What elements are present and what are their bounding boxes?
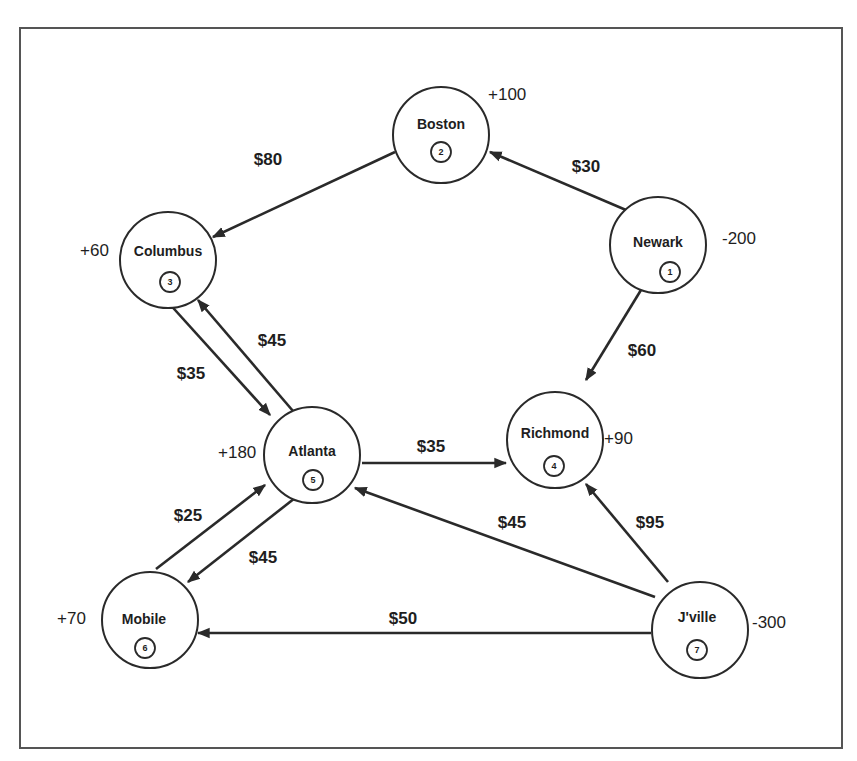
node-name: J'ville (678, 609, 717, 625)
node-name: Columbus (134, 243, 203, 259)
node-supply: -200 (722, 229, 756, 248)
node-mobile: Mobile 6 +70 (57, 572, 198, 668)
cost-boston-columbus: $80 (254, 150, 282, 169)
edges (156, 152, 668, 633)
node-number: 2 (438, 147, 443, 157)
node-supply: -300 (752, 613, 786, 632)
edge-jville-richmond (586, 484, 668, 582)
edge-atlanta-columbus (198, 300, 293, 411)
cost-newark-boston: $30 (572, 157, 600, 176)
node-columbus: Columbus 3 +60 (80, 212, 216, 308)
node-number: 6 (142, 643, 147, 653)
node-number: 7 (694, 645, 699, 655)
node-supply: +60 (80, 241, 109, 260)
edge-newark-boston (490, 152, 626, 210)
edge-columbus-atlanta (166, 300, 270, 415)
node-newark: Newark 1 -200 (610, 197, 756, 293)
cost-columbus-atlanta: $35 (177, 364, 205, 383)
node-name: Mobile (122, 611, 167, 627)
node-atlanta: Atlanta 5 +180 (218, 407, 360, 503)
cost-mobile-atlanta: $25 (174, 506, 202, 525)
node-name: Boston (417, 116, 465, 132)
edge-atlanta-mobile (188, 498, 295, 582)
node-supply: +100 (488, 85, 526, 104)
cost-jville-atlanta: $45 (498, 513, 526, 532)
node-jville: J'ville 7 -300 (652, 582, 786, 678)
network-diagram: $30 $80 $60 $35 $45 $35 $25 $45 $45 $95 … (0, 0, 857, 761)
edge-jville-atlanta (355, 488, 655, 597)
node-name: Newark (633, 234, 683, 250)
cost-atlanta-richmond: $35 (417, 437, 445, 456)
node-number: 4 (551, 461, 556, 471)
cost-jville-mobile: $50 (389, 609, 417, 628)
node-boston: Boston 2 +100 (393, 85, 526, 183)
node-number: 3 (167, 277, 172, 287)
node-supply: +70 (57, 609, 86, 628)
cost-jville-richmond: $95 (636, 513, 664, 532)
node-number: 1 (667, 267, 672, 277)
node-number: 5 (310, 475, 315, 485)
cost-atlanta-mobile: $45 (249, 548, 277, 567)
node-richmond: Richmond 4 +90 (507, 392, 633, 488)
node-name: Atlanta (288, 443, 336, 459)
node-name: Richmond (521, 425, 589, 441)
edge-boston-columbus (213, 152, 395, 237)
edge-newark-richmond (586, 290, 641, 380)
node-supply: +180 (218, 443, 256, 462)
node-supply: +90 (604, 429, 633, 448)
cost-newark-richmond: $60 (628, 341, 656, 360)
cost-atlanta-columbus: $45 (258, 331, 286, 350)
